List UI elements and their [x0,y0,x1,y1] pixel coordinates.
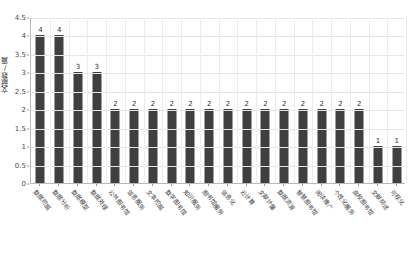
plot-area: 44332222222222222211 [30,18,405,184]
bar-value-label: 2 [226,100,230,108]
bar [223,109,232,183]
bar-value-label: 2 [188,100,192,108]
gridline-vertical [219,18,220,183]
bar-slot: 2 [106,18,125,183]
x-tick-mark [339,184,340,186]
bar-value-label: 4 [38,26,42,34]
bar-slot: 2 [350,18,369,183]
bar [317,109,326,183]
bar-slot: 2 [181,18,200,183]
bar-slot: 2 [331,18,350,183]
x-tick-mark [114,184,115,186]
gridline-vertical [312,18,313,183]
y-tick-label: 3.5 [15,51,26,59]
x-axis-labels: 数据挖掘数据分析数据模型数据处理公共图书馆信息服务文本挖掘数字图书馆知识服务图书… [30,184,405,256]
x-tick-mark [77,184,78,186]
gridline-vertical [331,18,332,183]
bar [261,109,270,183]
bar-slot: 2 [312,18,331,183]
bar [36,35,45,183]
gridline-vertical [294,18,295,183]
x-tick-mark [264,184,265,186]
gridline-vertical [162,18,163,183]
x-tick-mark [302,184,303,186]
y-tick-mark [27,36,29,37]
bar-value-label: 2 [319,100,323,108]
y-axis-ticks: 00.511.522.533.544.5 [8,0,29,256]
bar [355,109,364,183]
x-tick-mark [246,184,247,186]
bar [298,109,307,183]
x-tick-label: 信息化 [220,188,237,206]
y-tick-mark [27,128,29,129]
y-tick-mark [27,73,29,74]
x-tick-mark [283,184,284,186]
bar-slot: 2 [144,18,163,183]
gridline-vertical [125,18,126,183]
y-tick-mark [27,165,29,166]
bar [280,109,289,183]
gridline-vertical [350,18,351,183]
bar [148,109,157,183]
bar-value-label: 4 [57,26,61,34]
bar [130,109,139,183]
bar [336,109,345,183]
x-tick-label: 可视化 [389,188,406,206]
gridline-vertical [369,18,370,183]
bar-slot: 2 [275,18,294,183]
bar-value-label: 2 [282,100,286,108]
y-tick-label: 4 [22,32,26,40]
x-tick-label: 数据资源 [277,188,297,211]
x-tick-label: 数据模型 [70,188,90,211]
bar-value-label: 2 [244,100,248,108]
bar-value-label: 2 [357,100,361,108]
x-tick-label: 数据分析 [52,188,72,211]
bar [111,109,120,183]
bar-slot: 3 [87,18,106,183]
bar-slot: 4 [50,18,69,183]
x-tick-mark [133,184,134,186]
bar-slot: 2 [256,18,275,183]
y-tick-label: 1.5 [15,125,26,133]
y-tick-label: 3 [22,69,26,77]
x-tick-mark [208,184,209,186]
x-tick-mark [396,184,397,186]
bar [55,35,64,183]
y-tick-label: 0 [22,180,26,188]
y-tick-mark [27,54,29,55]
y-tick-label: 4.5 [15,14,26,22]
bar-slot: 1 [387,18,406,183]
bar-value-label: 1 [394,137,398,145]
bar-value-label: 2 [132,100,136,108]
x-tick-mark [39,184,40,186]
y-tick-label: 1 [22,143,26,151]
x-tick-mark [58,184,59,186]
x-tick-label: 数据挖掘 [33,188,53,211]
y-tick-mark [27,147,29,148]
bar-value-label: 2 [151,100,155,108]
bar-slot: 1 [369,18,388,183]
bar-value-label: 2 [169,100,173,108]
bar [242,109,251,183]
gridline-vertical [200,18,201,183]
y-tick-mark [27,184,29,185]
bar-slot: 2 [237,18,256,183]
bar-value-label: 2 [338,100,342,108]
y-tick-label: 2.5 [15,88,26,96]
x-tick-mark [358,184,359,186]
y-tick-mark [27,91,29,92]
x-tick-mark [227,184,228,186]
gridline-vertical [87,18,88,183]
x-tick-mark [171,184,172,186]
gridline-vertical [50,18,51,183]
gridline-vertical [106,18,107,183]
bar-value-label: 1 [376,137,380,145]
gridline-vertical [406,18,407,183]
bar-chart: 文献数/篇 00.511.522.533.544.5 4433222222222… [0,0,414,256]
bar-value-label: 3 [94,63,98,71]
bar-slot: 2 [125,18,144,183]
bar-slot: 3 [69,18,88,183]
bar [186,109,195,183]
gridline-vertical [387,18,388,183]
gridline-vertical [69,18,70,183]
